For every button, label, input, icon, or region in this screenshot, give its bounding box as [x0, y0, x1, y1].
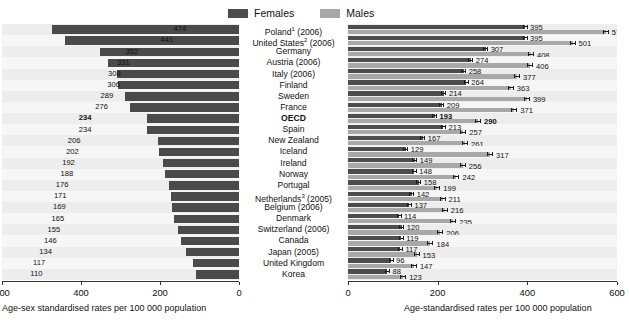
- value-label-females: 167: [428, 135, 441, 143]
- axis-by-sex-tick-label: 600: [599, 288, 629, 297]
- whisker-females: [399, 225, 404, 229]
- bar-females: [348, 36, 525, 40]
- bar-males: [348, 108, 514, 112]
- whisker-cap-left: [453, 175, 454, 179]
- chart-row: 158199: [348, 180, 617, 191]
- whisker-cap-right: [393, 258, 394, 262]
- whisker-males: [411, 264, 417, 268]
- bar-males: [348, 97, 527, 101]
- whisker-females: [407, 203, 412, 207]
- value-label-females: 142: [417, 191, 430, 199]
- whisker-cap-left: [462, 141, 463, 145]
- whisker-cap-right: [413, 192, 414, 196]
- chart-row: 137216: [348, 202, 617, 213]
- whisker-cap-left: [440, 197, 441, 201]
- chart-row: 167261: [348, 135, 617, 146]
- value-label-total: 155: [48, 226, 61, 234]
- bar-males: [348, 52, 531, 56]
- bar-total: [159, 148, 239, 156]
- legend-females-swatch: [228, 9, 248, 18]
- chart-row: 395575: [348, 24, 617, 35]
- value-label-total: 117: [33, 259, 45, 267]
- value-label-females: 96: [396, 257, 404, 265]
- value-label-females: 258: [469, 68, 482, 76]
- bar-total: [171, 192, 239, 200]
- category-label: Portugal: [239, 180, 348, 191]
- whisker-females: [389, 258, 394, 262]
- bar-total: [181, 237, 239, 245]
- category-label: Iceland: [239, 146, 348, 157]
- value-label-females: 158: [424, 179, 437, 187]
- bar-males: [348, 86, 511, 90]
- whisker-cap-left: [464, 80, 465, 84]
- value-label-females: 120: [407, 224, 420, 232]
- whisker-males: [437, 230, 443, 234]
- bar-males: [348, 30, 606, 34]
- whisker-cap-left: [511, 108, 512, 112]
- whisker-females: [385, 269, 390, 273]
- bar-females: [348, 147, 406, 151]
- value-label-total: 234: [79, 126, 92, 134]
- whisker-females: [409, 192, 414, 196]
- bar-females: [348, 80, 466, 84]
- whisker-cap-left: [411, 264, 412, 268]
- whisker-cap-right: [465, 69, 466, 73]
- legend-females-label: Females: [254, 8, 294, 18]
- whisker-cap-right: [480, 119, 481, 123]
- whisker-females: [464, 80, 469, 84]
- chart-row: 117153: [348, 247, 617, 258]
- category-label: United States2 (2006): [239, 35, 348, 46]
- axis-total-tick-label: 0: [221, 288, 257, 297]
- value-label-total: 289: [100, 92, 113, 100]
- bar-females: [348, 258, 391, 262]
- bar-males: [348, 141, 465, 145]
- chart-row: 395501: [348, 35, 617, 46]
- legend-males-label: Males: [346, 8, 374, 18]
- whisker-females: [397, 214, 402, 218]
- value-label-females: 129: [411, 146, 424, 154]
- whisker-females: [461, 69, 466, 73]
- axis-total-tick: [2, 282, 3, 285]
- chart-row: 165: [2, 213, 239, 224]
- whisker-cap-left: [524, 97, 525, 101]
- bar-total: [117, 70, 239, 78]
- whisker-cap-left: [427, 241, 428, 245]
- panel-by-sex: 3955753955013074082744062583772643632143…: [348, 24, 617, 280]
- whisker-cap-left: [460, 163, 461, 167]
- whisker-cap-right: [465, 163, 466, 167]
- chart-row: 213257: [348, 124, 617, 135]
- bar-total: [100, 48, 239, 56]
- value-label-females: 137: [414, 202, 427, 210]
- whisker-cap-left: [437, 230, 438, 234]
- bar-total: [193, 259, 239, 267]
- whisker-females: [468, 58, 473, 62]
- chart-row: 142211: [348, 191, 617, 202]
- chart-row: 110: [2, 269, 239, 280]
- whisker-males: [450, 219, 456, 223]
- axis-by-sex-tick: [438, 282, 439, 285]
- whisker-cap-left: [475, 119, 476, 123]
- legend-males: Males: [320, 8, 374, 18]
- bar-females: [348, 91, 444, 95]
- value-label-females: 117: [405, 246, 417, 254]
- category-labels: Poland1 (2006)United States2 (2006)Germa…: [239, 24, 348, 280]
- whisker-males: [527, 63, 533, 67]
- whisker-cap-left: [528, 52, 529, 56]
- whisker-cap-right: [487, 47, 488, 51]
- chart-row: 264363: [348, 80, 617, 91]
- bar-females: [348, 180, 419, 184]
- whisker-cap-right: [468, 80, 469, 84]
- whisker-cap-left: [508, 86, 509, 90]
- chart-row: 120206: [348, 224, 617, 235]
- bar-females: [348, 247, 400, 251]
- bar-females: [348, 69, 464, 73]
- category-label: Norway: [239, 169, 348, 180]
- chart-row: 276: [2, 102, 239, 113]
- value-label-females: 264: [471, 79, 484, 87]
- chart-row: 88123: [348, 269, 617, 280]
- panel-total: 4744413523313083062892762342342062021921…: [2, 24, 239, 280]
- bar-males: [348, 63, 530, 67]
- category-label: Germany: [239, 46, 348, 57]
- axis-by-sex-tick-label: 400: [509, 288, 545, 297]
- category-label: Spain: [239, 124, 348, 135]
